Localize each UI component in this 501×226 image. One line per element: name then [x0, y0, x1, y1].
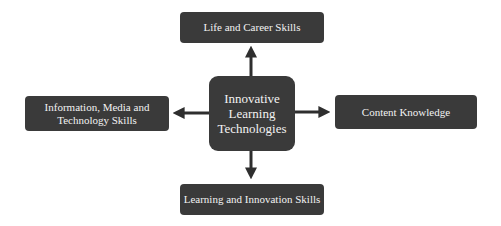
node-innovative-learning-technologies: Innovative Learning Technologies: [209, 76, 295, 151]
node-life-and-career-skills: Life and Career Skills: [180, 12, 324, 43]
center-label-line-3: Technologies: [217, 121, 286, 136]
node-label: Life and Career Skills: [204, 21, 301, 34]
center-label-line-1: Innovative: [217, 91, 286, 106]
node-label-line-2: Technology Skills: [45, 114, 150, 127]
node-label: Content Knowledge: [362, 106, 450, 119]
node-information-media-technology-skills: Information, Media and Technology Skills: [25, 96, 169, 131]
node-content-knowledge: Content Knowledge: [335, 95, 477, 129]
node-label-line-1: Information, Media and: [45, 101, 150, 114]
center-label-line-2: Learning: [217, 106, 286, 121]
node-label: Learning and Innovation Skills: [184, 193, 321, 206]
node-learning-and-innovation-skills: Learning and Innovation Skills: [180, 184, 324, 215]
